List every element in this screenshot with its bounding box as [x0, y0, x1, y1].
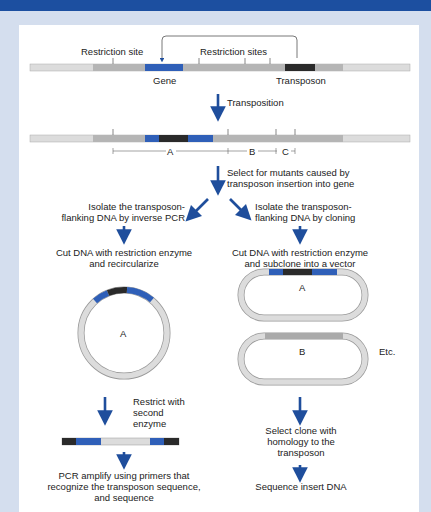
transposition-label: Transposition — [227, 97, 284, 108]
vector-b — [241, 333, 365, 382]
restriction-sites-label: Restriction sites — [200, 46, 267, 57]
right-cut-l2: and subclone into a vector — [218, 258, 382, 269]
restriction-site-label: Restriction site — [81, 46, 143, 57]
select-clone-l2: homology to the — [220, 436, 382, 447]
pcr-amplify-l3: and sequence — [34, 492, 214, 503]
transposon-segment — [285, 64, 315, 71]
select-clone-l1: Select clone with — [220, 425, 382, 436]
cloning-l2: flanking DNA by cloning — [255, 212, 355, 223]
vector-a-label: A — [299, 282, 305, 293]
restrict-l2: second — [133, 407, 164, 418]
gene-segment — [145, 64, 183, 71]
sequence-insert-label: Sequence insert DNA — [220, 481, 382, 492]
left-cut-l2: and recircularize — [44, 258, 204, 269]
select-clone-l3: transposon — [220, 447, 382, 458]
gene-label: Gene — [153, 75, 176, 86]
select-mutants-l1: Select for mutants caused by — [227, 167, 350, 178]
cloning-l1: Isolate the transposon- — [255, 201, 352, 212]
pcr-amplify-l1: PCR amplify using primers that — [34, 470, 214, 481]
left-cut-l1: Cut DNA with restriction enzyme — [44, 247, 204, 258]
vector-b-label: B — [299, 346, 305, 357]
restrict-l1: Restrict with — [133, 396, 185, 407]
linear-fragment — [62, 438, 179, 445]
segment-b-label: B — [249, 146, 255, 157]
etc-label: Etc. — [379, 346, 395, 357]
right-cut-l1: Cut DNA with restriction enzyme — [218, 247, 382, 258]
pcr-amplify-l2: recognize the transposon sequence, — [34, 481, 214, 492]
segment-c-label: C — [282, 146, 289, 157]
vector-a — [241, 269, 365, 318]
circle-a-label: A — [120, 328, 126, 339]
select-mutants-l2: transposon insertion into gene — [227, 178, 354, 189]
chromosome-2 — [30, 129, 410, 154]
transposon-label: Transposon — [276, 75, 326, 86]
inverse-pcr-l1: Isolate the transposon- — [88, 201, 185, 212]
segment-a-label: A — [167, 146, 173, 157]
restrict-l3: enzyme — [133, 418, 166, 429]
inverse-pcr-l2: flanking DNA by inverse PCR — [61, 212, 185, 223]
